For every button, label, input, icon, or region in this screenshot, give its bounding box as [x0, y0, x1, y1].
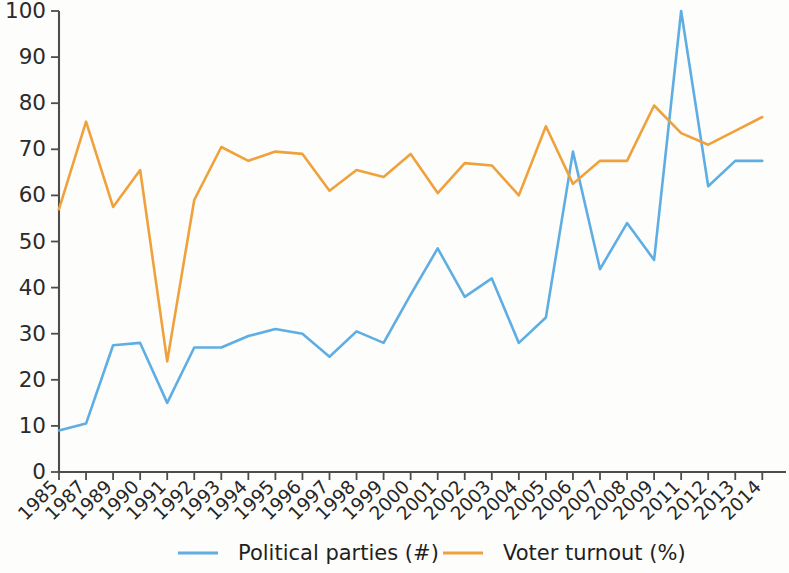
y-tick-label: 50	[19, 229, 46, 254]
y-tick-label: 60	[19, 182, 46, 207]
legend-label-voter-turnout: Voter turnout (%)	[503, 541, 686, 565]
line-chart: 0102030405060708090100 19851987198919901…	[0, 0, 789, 573]
y-tick-label: 40	[19, 275, 46, 300]
y-tick-label: 100	[5, 0, 46, 23]
y-tick-label: 90	[19, 44, 46, 69]
y-tick-label: 20	[19, 367, 46, 392]
y-tick-label: 80	[19, 90, 46, 115]
y-tick-label: 10	[19, 413, 46, 438]
chart-container: 0102030405060708090100 19851987198919901…	[0, 0, 789, 573]
y-tick-label: 30	[19, 321, 46, 346]
legend-label-political-parties: Political parties (#)	[238, 541, 439, 565]
chart-legend: Political parties (#)Voter turnout (%)	[178, 541, 686, 565]
y-tick-label: 70	[19, 136, 46, 161]
